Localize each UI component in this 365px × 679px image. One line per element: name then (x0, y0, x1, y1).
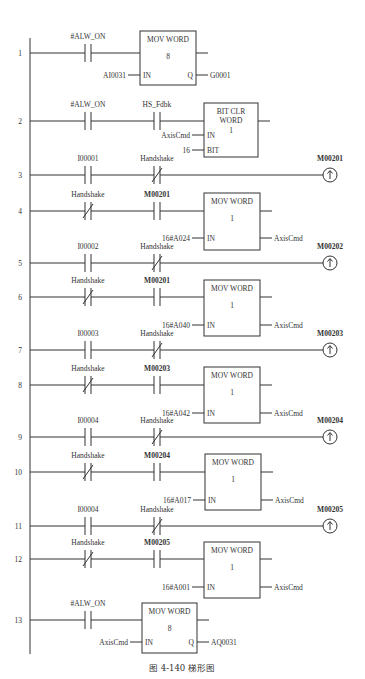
contact-label: M00201 (144, 276, 170, 285)
contact-label: Handshake (71, 538, 105, 547)
normally-open-contact[interactable]: I00002 (77, 242, 98, 272)
rung-number: 2 (18, 117, 22, 126)
rung-6: 6HandshakeM00201MOV WORD1IN16#A040AxisCm… (18, 276, 303, 336)
contact-label: M00203 (144, 364, 170, 373)
rung-number: 1 (18, 49, 22, 58)
normally-open-contact[interactable]: M00201 (144, 276, 170, 306)
normally-open-contact[interactable]: #ALW_ON (71, 100, 106, 130)
contact-label: I00001 (77, 154, 98, 163)
normally-open-contact[interactable]: #ALW_ON (71, 32, 106, 62)
block-title: MOV WORD (211, 546, 254, 555)
pin-in: IN (207, 583, 215, 592)
normally-closed-contact[interactable]: Handshake (71, 190, 105, 220)
normally-closed-contact[interactable]: Handshake (71, 538, 105, 568)
contact-label: I00002 (77, 242, 98, 251)
output-operand: G0001 (210, 71, 231, 80)
contact-label: Handshake (140, 505, 174, 514)
contact-label: Handshake (140, 242, 174, 251)
positive-transition-coil[interactable]: M00202 (317, 242, 343, 270)
function-block[interactable]: MOV WORD8INAI0031QG0001 (103, 31, 231, 85)
function-block[interactable]: MOV WORD1IN16#A001AxisCmd (162, 542, 303, 598)
normally-open-contact[interactable]: I00003 (77, 329, 98, 359)
rung-4: 4HandshakeM00201MOV WORD1IN16#A024AxisCm… (18, 190, 303, 250)
rung-number: 11 (15, 522, 22, 531)
rung-number: 5 (18, 259, 22, 268)
rung-number: 10 (15, 468, 23, 477)
block-title: MOV WORD (211, 197, 254, 206)
pin-in: IN (207, 409, 215, 418)
normally-closed-contact[interactable]: Handshake (140, 154, 174, 184)
normally-open-contact[interactable]: M00203 (144, 364, 170, 394)
positive-transition-coil[interactable]: M00201 (317, 154, 343, 182)
coil-label: M00201 (317, 154, 343, 163)
rung-5: 5I00002HandshakeM00202 (18, 242, 343, 272)
block-parameter: 1 (230, 563, 234, 572)
block-parameter: 8 (168, 624, 172, 633)
contact-label: Handshake (140, 416, 174, 425)
normally-open-contact[interactable]: M00204 (144, 451, 170, 481)
positive-transition-coil[interactable]: M00203 (317, 329, 343, 357)
coil-label: M00205 (317, 505, 343, 514)
normally-closed-contact[interactable]: Handshake (140, 505, 174, 535)
contact-label: Handshake (71, 190, 105, 199)
output-operand: AQ0031 (211, 638, 237, 647)
normally-closed-contact[interactable]: Handshake (71, 364, 105, 394)
normally-open-contact[interactable]: I00004 (77, 505, 98, 535)
function-block[interactable]: MOV WORD1IN16#A042AxisCmd (162, 367, 303, 423)
pin-q: Q (188, 71, 194, 80)
normally-open-contact[interactable]: #ALW_ON (71, 599, 106, 629)
input-operand: AxisCmd (99, 638, 128, 647)
output-operand: AxisCmd (274, 321, 303, 330)
normally-open-contact[interactable]: M00201 (144, 190, 170, 220)
contact-label: Handshake (71, 451, 105, 460)
pin-q: Q (189, 638, 195, 647)
pin-in: IN (207, 131, 215, 140)
rung-2: 2#ALW_ONHS_FdbkBIT CLRWORD1INAxisCmdBIT1… (18, 100, 270, 157)
function-block[interactable]: MOV WORD1IN16#A024AxisCmd (162, 193, 303, 250)
contact-label: #ALW_ON (71, 599, 106, 608)
output-operand: AxisCmd (274, 583, 303, 592)
function-block[interactable]: MOV WORD1IN16#A040AxisCmd (162, 280, 303, 336)
rung-number: 4 (18, 207, 22, 216)
normally-closed-contact[interactable]: Handshake (71, 276, 105, 306)
rung-10: 10HandshakeM00204MOV WORD1IN16#A017AxisC… (15, 451, 305, 510)
contact-label: Handshake (71, 276, 105, 285)
output-operand: AxisCmd (275, 496, 304, 505)
pin-bit: BIT (207, 146, 220, 155)
block-title: MOV WORD (211, 371, 254, 380)
normally-closed-contact[interactable]: Handshake (140, 329, 174, 359)
rung-number: 9 (18, 433, 22, 442)
function-block[interactable]: BIT CLRWORD1INAxisCmdBIT16 (161, 103, 270, 157)
block-parameter: 1 (231, 475, 235, 484)
contact-label: Handshake (140, 329, 174, 338)
normally-open-contact[interactable]: HS_Fdbk (143, 100, 172, 130)
block-title: MOV WORD (147, 35, 190, 44)
normally-closed-contact[interactable]: Handshake (140, 242, 174, 272)
contact-label: M00205 (144, 538, 170, 547)
block-title: WORD (220, 116, 243, 125)
input-operand: AI0031 (103, 71, 126, 80)
contact-label: M00201 (144, 190, 170, 199)
contact-label: #ALW_ON (71, 32, 106, 41)
positive-transition-coil[interactable]: M00205 (317, 505, 343, 533)
positive-transition-coil[interactable]: M00204 (317, 416, 343, 444)
rung-11: 11I00004HandshakeM00205 (15, 505, 343, 535)
pin-in: IN (145, 638, 153, 647)
input-operand: 16#A017 (163, 496, 191, 505)
block-parameter: 1 (230, 301, 234, 310)
rung-number: 8 (18, 381, 22, 390)
block-title: BIT CLR (217, 107, 245, 116)
rung-number: 3 (18, 171, 22, 180)
normally-closed-contact[interactable]: Handshake (71, 451, 105, 481)
rung-number: 12 (15, 555, 23, 564)
contact-label: Handshake (71, 364, 105, 373)
coil-label: M00202 (317, 242, 343, 251)
normally-closed-contact[interactable]: Handshake (140, 416, 174, 446)
normally-open-contact[interactable]: M00205 (144, 538, 170, 568)
pin-in: IN (143, 71, 151, 80)
function-block[interactable]: MOV WORD1IN16#A017AxisCmd (163, 454, 304, 510)
normally-open-contact[interactable]: I00001 (77, 154, 98, 184)
normally-open-contact[interactable]: I00004 (77, 416, 98, 446)
block-title: MOV WORD (148, 607, 191, 616)
function-block[interactable]: MOV WORD8INAxisCmdQAQ0031 (99, 603, 237, 653)
